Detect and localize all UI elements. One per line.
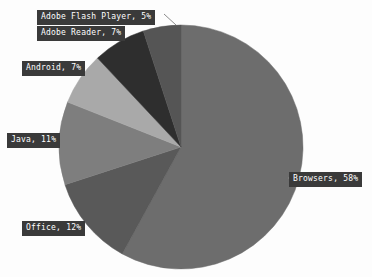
slice-label-office: Office, 12% <box>22 221 85 236</box>
slice-label-browsers: Browsers, 58% <box>289 172 362 187</box>
slice-label-adobe-flash-player: Adobe Flash Player, 5% <box>37 10 155 25</box>
slice-label-android: Android, 7% <box>22 61 85 76</box>
slice-label-java: Java, 11% <box>7 133 60 148</box>
pie-chart-figure: Adobe Flash Player, 5% Adobe Reader, 7% … <box>0 0 372 277</box>
leader-line-adobe-flash-player <box>164 14 176 25</box>
slice-label-adobe-reader: Adobe Reader, 7% <box>37 26 125 41</box>
pie-slice-group <box>59 25 303 269</box>
